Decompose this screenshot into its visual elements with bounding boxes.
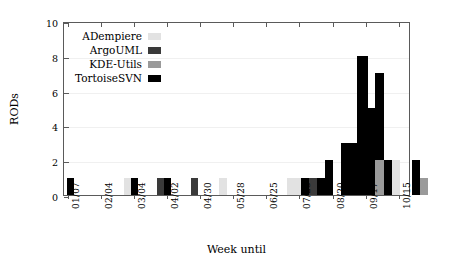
bar (357, 56, 368, 195)
y-tick-label: 10 (46, 18, 58, 29)
x-tick-mark (333, 23, 334, 27)
x-tick-mark (233, 195, 234, 199)
y-tick-mark (64, 93, 69, 94)
x-tick-mark (366, 23, 367, 27)
bar (317, 178, 325, 195)
x-tick-mark (399, 23, 400, 27)
y-tick-label: 4 (52, 122, 58, 133)
bar (392, 160, 400, 195)
x-tick-label: 01/07 (71, 182, 81, 209)
legend-label: ADempiere (82, 30, 142, 42)
legend-swatch (148, 47, 161, 54)
bar (325, 160, 333, 195)
x-tick-mark (266, 23, 267, 27)
x-tick-label: 02/04 (104, 182, 114, 209)
x-tick-mark (167, 195, 168, 199)
legend-label: ArgoUML (90, 44, 142, 56)
x-tick-mark (134, 23, 135, 27)
legend-label: KDE-Utils (89, 58, 142, 70)
y-tick-mark (64, 58, 69, 59)
x-tick-label: 07/23 (302, 182, 312, 209)
x-tick-label: 08/20 (336, 182, 346, 209)
x-tick-label: 06/25 (269, 182, 279, 209)
x-axis-title: Week until (0, 243, 473, 256)
bar (412, 160, 420, 195)
y-axis-title: RODs (8, 93, 21, 125)
legend-swatch (148, 33, 161, 40)
bar (384, 160, 392, 195)
x-tick-mark (266, 195, 267, 199)
x-tick-mark (200, 23, 201, 27)
y-tick-label: 8 (52, 52, 58, 63)
x-tick-mark (134, 195, 135, 199)
y-tick-label: 2 (52, 157, 58, 168)
chart-legend: ADempiereArgoUMLKDE-UtilsTortoiseSVN (75, 30, 161, 84)
x-tick-mark (399, 195, 400, 199)
x-tick-mark (333, 195, 334, 199)
y-tick-mark (64, 127, 69, 128)
x-tick-label: 05/28 (236, 182, 246, 209)
y-tick-mark (64, 162, 69, 163)
y-tick-label: 6 (52, 87, 58, 98)
legend-item[interactable]: ADempiere (75, 30, 161, 42)
x-tick-mark (200, 195, 201, 199)
bar (157, 178, 164, 195)
legend-swatch (148, 61, 161, 68)
bar-chart: RODs Week until 0246810 01/0702/0403/040… (0, 0, 473, 269)
x-tick-mark (299, 195, 300, 199)
bar (287, 178, 294, 195)
x-tick-mark (101, 23, 102, 27)
x-tick-label: 10/15 (402, 182, 412, 209)
x-tick-mark (167, 23, 168, 27)
bar (191, 178, 198, 195)
x-tick-mark (68, 195, 69, 199)
x-tick-label: 04/02 (170, 182, 180, 209)
x-tick-mark (101, 195, 102, 199)
legend-item[interactable]: TortoiseSVN (75, 72, 161, 84)
x-tick-label: 04/30 (203, 182, 213, 209)
x-tick-mark (68, 23, 69, 27)
y-tick-label: 0 (52, 192, 58, 203)
legend-item[interactable]: KDE-Utils (75, 58, 161, 70)
x-tick-label: 09/17 (369, 182, 379, 209)
legend-swatch (148, 75, 161, 82)
x-tick-mark (299, 23, 300, 27)
bar (219, 178, 227, 195)
legend-item[interactable]: ArgoUML (75, 44, 161, 56)
x-tick-mark (233, 23, 234, 27)
legend-label: TortoiseSVN (75, 72, 142, 84)
bar (294, 178, 301, 195)
x-tick-mark (366, 195, 367, 199)
bar (124, 178, 131, 195)
x-tick-label: 03/04 (137, 182, 147, 209)
bar (420, 178, 428, 195)
